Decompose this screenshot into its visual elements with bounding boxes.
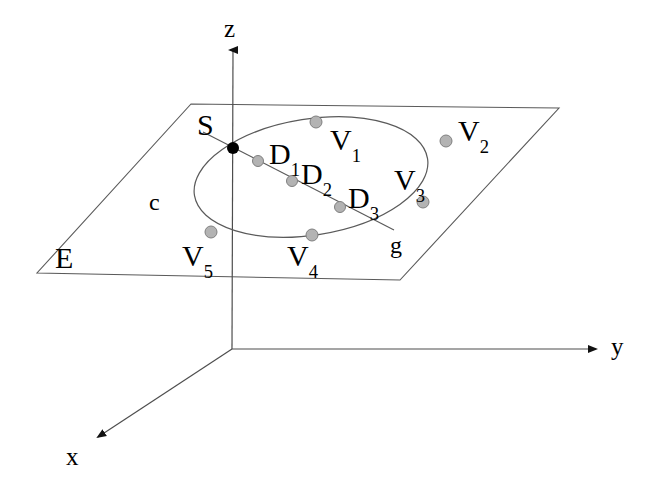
point-label-D3: D3 bbox=[348, 183, 379, 219]
line-label-g: g bbox=[390, 233, 402, 257]
point-label-V5: V5 bbox=[182, 241, 213, 277]
point-label-V2: V2 bbox=[458, 116, 489, 152]
apex-point-S bbox=[227, 142, 239, 154]
point-label-base: D bbox=[301, 157, 323, 190]
point-label-subscript: 1 bbox=[291, 159, 300, 180]
point-label-subscript: 3 bbox=[370, 203, 379, 224]
point-label-subscript: 5 bbox=[204, 261, 213, 282]
axis-x-line bbox=[98, 349, 232, 437]
axis-label-x: x bbox=[66, 444, 79, 469]
point-label-subscript: 4 bbox=[309, 261, 318, 282]
conic-label-c: c bbox=[149, 190, 160, 214]
point-label-base: V bbox=[330, 123, 352, 156]
point-label-subscript: 1 bbox=[352, 145, 361, 166]
point-label-subscript: 3 bbox=[416, 185, 425, 206]
axis-label-y: y bbox=[611, 334, 624, 359]
plane-label-E: E bbox=[55, 243, 73, 273]
point-label-V4: V4 bbox=[287, 241, 318, 277]
point-marker-V5 bbox=[205, 226, 217, 238]
point-label-base: D bbox=[269, 137, 291, 170]
axis-z-line bbox=[232, 50, 233, 349]
point-label-D1: D1 bbox=[269, 139, 300, 175]
point-label-base: D bbox=[348, 181, 370, 214]
point-label-subscript: 2 bbox=[480, 136, 489, 157]
point-label-subscript: 2 bbox=[323, 179, 332, 200]
point-label-V1: V1 bbox=[330, 125, 361, 161]
point-label-base: V bbox=[458, 114, 480, 147]
point-marker-V2 bbox=[440, 135, 452, 147]
point-label-base: V bbox=[287, 239, 309, 272]
point-marker-D3 bbox=[335, 202, 346, 213]
diagram-vector-layer bbox=[0, 0, 654, 489]
point-marker-D1 bbox=[253, 156, 264, 167]
point-label-base: V bbox=[394, 163, 416, 196]
point-marker-V1 bbox=[310, 116, 322, 128]
point-label-V3: V3 bbox=[394, 165, 425, 201]
diagram-canvas: z y x E c g S V1V2V3V4V5D1D2D3 bbox=[0, 0, 654, 489]
point-label-D2: D2 bbox=[301, 159, 332, 195]
axis-label-z: z bbox=[224, 16, 235, 41]
apex-label-S: S bbox=[197, 110, 214, 140]
point-label-base: V bbox=[182, 239, 204, 272]
